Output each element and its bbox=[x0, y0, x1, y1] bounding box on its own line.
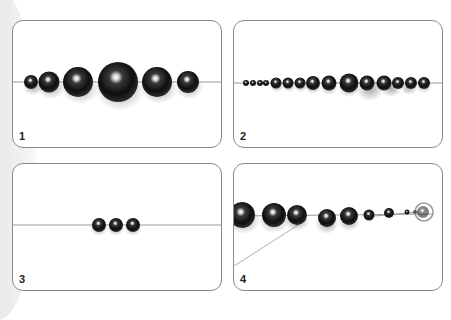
step-number: 3 bbox=[19, 273, 25, 285]
step-panel-3: 3 bbox=[12, 163, 222, 291]
step-panel-1: 1 bbox=[12, 20, 222, 148]
clasp-icon bbox=[413, 203, 433, 221]
step-number: 1 bbox=[19, 130, 25, 142]
step-panel-4: 4 bbox=[233, 163, 443, 291]
step-number: 4 bbox=[240, 273, 246, 285]
bead-strand-illustration bbox=[234, 164, 442, 290]
step-panel-2: 2 bbox=[233, 20, 443, 148]
bead-strand-illustration bbox=[13, 164, 221, 290]
bead-strand-illustration bbox=[13, 21, 221, 147]
bead-strand-illustration bbox=[234, 21, 442, 147]
step-number: 2 bbox=[240, 130, 246, 142]
